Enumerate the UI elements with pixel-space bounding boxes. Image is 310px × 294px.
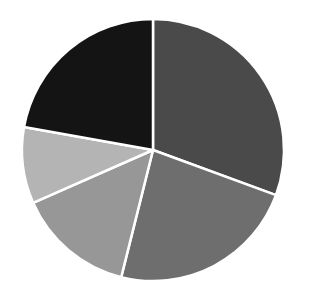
pie-chart (0, 0, 310, 294)
pie-slice-5 (24, 19, 153, 150)
pie-chart-canvas (0, 0, 310, 294)
